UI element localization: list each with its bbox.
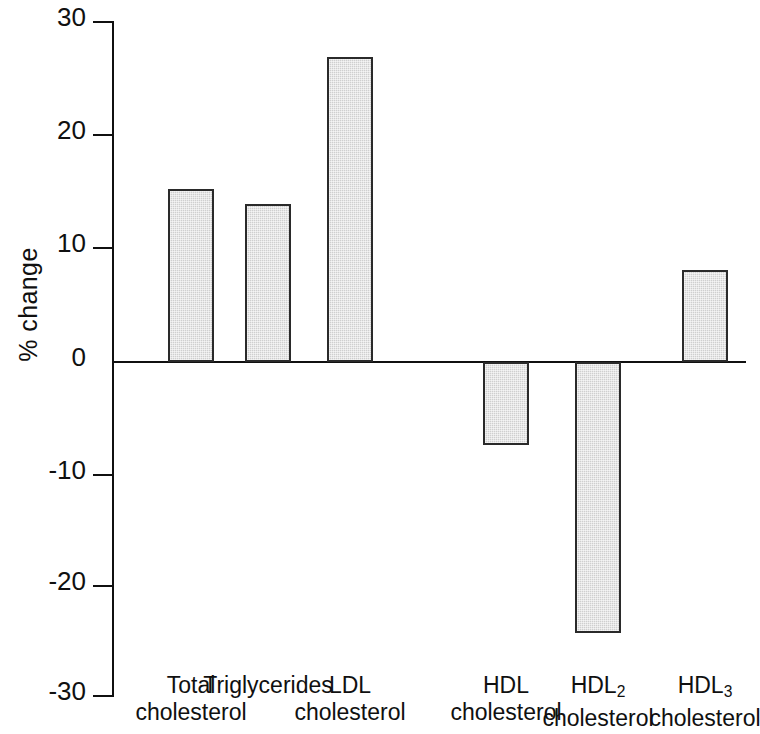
x-label-ldl-cholesterol: LDL cholesterol <box>275 672 425 726</box>
y-tick-30 <box>93 21 114 23</box>
x-label-line2: cholesterol <box>630 705 760 732</box>
y-tick-label-neg20: -20 <box>0 568 86 594</box>
y-tick-neg10 <box>93 474 114 476</box>
x-label-line2: cholesterol <box>116 699 266 726</box>
y-tick-neg20 <box>93 585 114 587</box>
y-tick-neg30 <box>93 695 114 697</box>
x-label-line2: cholesterol <box>275 699 425 726</box>
bar-hdl2-cholesterol <box>575 362 621 633</box>
x-label-line1: HDL3 <box>630 672 760 705</box>
y-tick-label-0: 0 <box>0 344 86 370</box>
x-label-hdl3-cholesterol: HDL3 cholesterol <box>630 672 760 732</box>
bar-triglycerides <box>245 204 291 362</box>
y-tick-label-10: 10 <box>0 230 86 256</box>
bar-chart-figure: % change 30 20 10 0 -10 -20 -30 Total ch… <box>0 0 760 734</box>
bar-total-cholesterol <box>168 189 214 362</box>
x-label-subscript: 3 <box>724 683 733 700</box>
y-tick-10 <box>93 247 114 249</box>
bar-hdl-cholesterol <box>483 362 529 445</box>
x-label-base: HDL <box>678 672 724 698</box>
y-axis-line <box>112 22 114 696</box>
y-tick-label-20: 20 <box>0 117 86 143</box>
y-tick-20 <box>93 134 114 136</box>
zero-baseline <box>112 361 746 363</box>
bar-hdl3-cholesterol <box>682 270 728 362</box>
y-tick-label-neg30: -30 <box>0 678 86 704</box>
y-tick-label-30: 30 <box>0 4 86 30</box>
bar-ldl-cholesterol <box>327 57 373 362</box>
y-tick-label-neg10: -10 <box>0 457 86 483</box>
bars-layer <box>0 0 760 734</box>
x-label-line1: LDL <box>275 672 425 699</box>
x-label-base: HDL <box>571 672 617 698</box>
x-label-subscript: 2 <box>617 683 626 700</box>
